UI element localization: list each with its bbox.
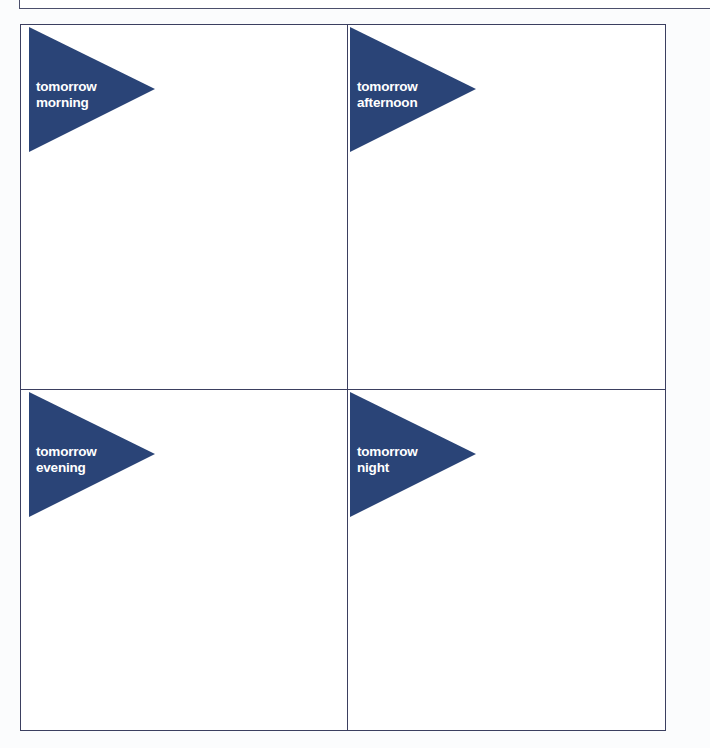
label-line-2: afternoon (357, 95, 418, 111)
quadrant-label: tomorrow morning (36, 79, 97, 110)
quadrant-tomorrow-morning[interactable]: tomorrow morning (21, 25, 347, 389)
quadrant-tomorrow-evening[interactable]: tomorrow evening (21, 390, 347, 730)
flag-tomorrow-afternoon: tomorrow afternoon (350, 27, 476, 152)
label-line-1: tomorrow (357, 444, 418, 460)
quadrant-label: tomorrow evening (36, 444, 97, 475)
time-of-day-grid: tomorrow morning tomorrow afternoon tomo… (20, 24, 666, 731)
quadrant-label: tomorrow afternoon (357, 79, 418, 110)
label-line-2: evening (36, 460, 97, 476)
quadrant-tomorrow-night[interactable]: tomorrow night (348, 390, 665, 730)
top-writing-box (19, 0, 710, 9)
label-line-1: tomorrow (357, 79, 418, 95)
quadrant-tomorrow-afternoon[interactable]: tomorrow afternoon (348, 25, 665, 389)
label-line-1: tomorrow (36, 444, 97, 460)
label-line-1: tomorrow (36, 79, 97, 95)
quadrant-label: tomorrow night (357, 444, 418, 475)
label-line-2: night (357, 460, 418, 476)
label-line-2: morning (36, 95, 97, 111)
flag-tomorrow-morning: tomorrow morning (29, 27, 155, 152)
flag-tomorrow-evening: tomorrow evening (29, 392, 155, 517)
flag-tomorrow-night: tomorrow night (350, 392, 476, 517)
